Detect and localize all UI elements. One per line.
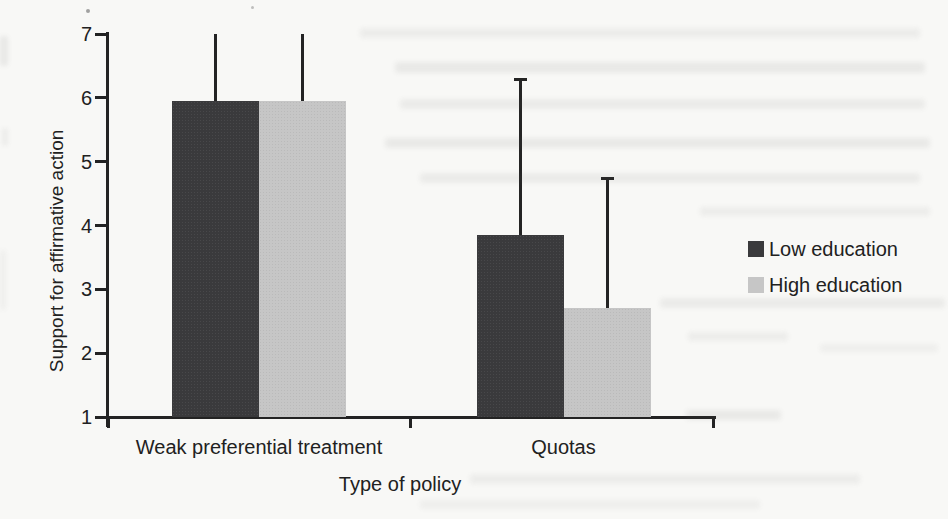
bar-low-education-weak-preferential-treatment bbox=[172, 101, 259, 417]
legend-item-low-education: Low education bbox=[748, 240, 902, 258]
error-bar-low-education-quotas bbox=[519, 79, 522, 235]
legend: Low educationHigh education bbox=[748, 240, 902, 312]
error-bar-high-education-quotas bbox=[606, 178, 609, 309]
error-bar-low-education-weak-preferential-treatment bbox=[214, 34, 217, 101]
error-bar-cap-low-education-quotas bbox=[514, 78, 527, 81]
y-tick-1 bbox=[95, 416, 107, 419]
scan-speck-1 bbox=[251, 6, 254, 9]
x-tick-1 bbox=[409, 417, 412, 428]
legend-item-high-education: High education bbox=[748, 276, 902, 294]
bar-low-education-quotas bbox=[477, 235, 564, 417]
bar-chart-figure: 1234567 Weak preferential treatmentQuota… bbox=[0, 0, 948, 519]
y-tick-label-7: 7 bbox=[58, 22, 92, 46]
x-tick-2 bbox=[712, 417, 715, 428]
x-tick-0 bbox=[107, 417, 110, 428]
legend-swatch-low-education-icon bbox=[748, 241, 764, 257]
error-bar-cap-high-education-quotas bbox=[601, 177, 614, 180]
legend-label-high-education: High education bbox=[769, 276, 902, 294]
bar-high-education-quotas bbox=[564, 308, 651, 417]
y-tick-3 bbox=[95, 288, 107, 291]
y-tick-4 bbox=[95, 224, 107, 227]
y-tick-label-6: 6 bbox=[58, 86, 92, 110]
category-label-quotas: Quotas bbox=[531, 435, 595, 459]
legend-swatch-high-education-icon bbox=[748, 277, 764, 293]
bar-high-education-weak-preferential-treatment bbox=[259, 101, 346, 417]
y-tick-7 bbox=[95, 33, 107, 36]
y-axis-title: Support for affirmative action bbox=[46, 130, 68, 373]
y-tick-5 bbox=[95, 160, 107, 163]
legend-label-low-education: Low education bbox=[769, 240, 898, 258]
scanned-book-page: 1234567 Weak preferential treatmentQuota… bbox=[0, 0, 948, 519]
x-axis-title: Type of policy bbox=[339, 472, 461, 496]
y-tick-6 bbox=[95, 96, 107, 99]
category-label-weak-preferential-treatment: Weak preferential treatment bbox=[136, 435, 382, 459]
scan-speck-0 bbox=[86, 9, 90, 13]
y-axis-line bbox=[106, 32, 109, 427]
y-tick-2 bbox=[95, 352, 107, 355]
error-bar-high-education-weak-preferential-treatment bbox=[301, 34, 304, 101]
y-tick-label-1: 1 bbox=[58, 405, 92, 429]
